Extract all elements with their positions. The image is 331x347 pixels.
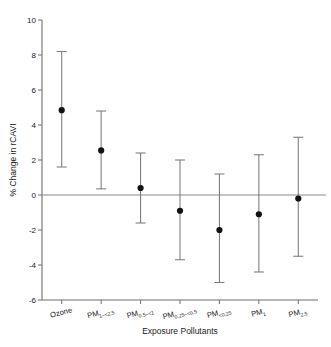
y-tick-label: -6 xyxy=(29,296,37,305)
error-bar-chart: 1086420-2-4-6% Change in rCAVIOzonePM1–<… xyxy=(0,0,331,347)
y-tick-label: -4 xyxy=(29,261,37,270)
x-tick-label: PM0.5–<1 xyxy=(126,305,155,322)
data-point[interactable] xyxy=(216,227,222,233)
data-point[interactable] xyxy=(98,147,104,153)
y-axis-title: % Change in rCAVI xyxy=(8,123,18,196)
x-tick-label: PM2.5 xyxy=(288,306,309,321)
y-tick-label: -2 xyxy=(29,226,37,235)
x-tick-label: PM<0.25 xyxy=(206,305,232,321)
y-tick-label: 4 xyxy=(32,121,37,130)
chart-figure: 1086420-2-4-6% Change in rCAVIOzonePM1–<… xyxy=(0,0,331,347)
x-axis-title: Exposure Pollutants xyxy=(142,326,218,336)
x-tick-label: Ozone xyxy=(49,306,73,320)
y-tick-label: 2 xyxy=(32,156,37,165)
y-tick-label: 8 xyxy=(32,51,37,60)
data-point[interactable] xyxy=(177,208,183,214)
data-point[interactable] xyxy=(59,107,65,113)
y-tick-label: 0 xyxy=(32,191,37,200)
data-point[interactable] xyxy=(256,211,262,217)
data-point[interactable] xyxy=(137,185,143,191)
x-tick-label: PM1–<2.5 xyxy=(86,305,115,322)
x-tick-label: PM0.25–<0.5 xyxy=(162,304,198,322)
x-tick-label: PM1 xyxy=(250,306,266,320)
y-tick-label: 6 xyxy=(32,86,37,95)
data-point[interactable] xyxy=(295,195,301,201)
y-tick-label: 10 xyxy=(27,16,36,25)
